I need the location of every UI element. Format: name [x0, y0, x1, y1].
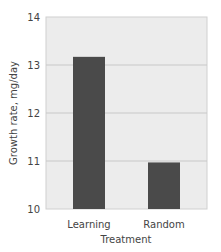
y-axis-title: Growth rate, mg/day [8, 61, 19, 165]
y-tick-label: 13 [27, 60, 40, 71]
y-axis-ticks: 1011121314 [27, 12, 40, 215]
x-tick-label: Random [143, 219, 184, 230]
bar-random [148, 162, 180, 209]
y-tick-label: 11 [27, 156, 40, 167]
y-tick-label: 12 [27, 108, 40, 119]
bar-chart: 1011121314 LearningRandom Treatment Grow… [0, 0, 221, 252]
x-axis-title: Treatment [100, 234, 152, 245]
x-tick-label: Learning [67, 219, 110, 230]
y-tick-label: 10 [27, 204, 40, 215]
y-tick-label: 14 [27, 12, 40, 23]
x-axis-ticks: LearningRandom [67, 219, 184, 230]
bar-learning [73, 57, 105, 209]
